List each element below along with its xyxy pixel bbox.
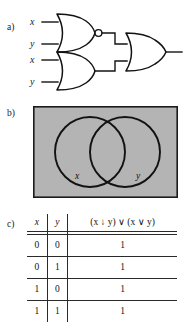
truth-table: x y (x ↓ y) ∨ (x ∨ y) 0 0 1 0 bbox=[27, 214, 177, 322]
wire-nor-to-or bbox=[102, 33, 127, 44]
cell-value: 1 bbox=[68, 235, 177, 257]
logic-circuit-diagram: x y x y bbox=[0, 0, 184, 102]
cell-x: 0 bbox=[27, 257, 47, 279]
truth-table-body: 0 0 1 0 1 1 1 0 1 1 1 1 bbox=[27, 235, 177, 323]
venn-label-y: y bbox=[135, 171, 141, 181]
table-header-row: x y (x ↓ y) ∨ (x ∨ y) bbox=[27, 214, 177, 232]
table-row: 0 0 1 bbox=[27, 235, 177, 257]
cell-x: 1 bbox=[27, 279, 47, 301]
truth-table-head: x y (x ↓ y) ∨ (x ∨ y) bbox=[27, 214, 177, 235]
input-label-y-2: y bbox=[29, 76, 35, 87]
figure-page: a) x y x y b bbox=[0, 0, 184, 327]
cell-y: 0 bbox=[47, 235, 68, 257]
cell-value: 1 bbox=[68, 257, 177, 279]
nor-gate-inversion-bubble bbox=[95, 30, 102, 37]
part-label-b: b) bbox=[7, 108, 15, 118]
cell-y: 0 bbox=[47, 279, 68, 301]
input-label-x-1: x bbox=[29, 16, 35, 27]
table-row: 1 1 1 bbox=[27, 301, 177, 323]
cell-x: 0 bbox=[27, 235, 47, 257]
part-label-c: c) bbox=[7, 219, 15, 229]
cell-x: 1 bbox=[27, 301, 47, 323]
table-row: 0 1 1 bbox=[27, 257, 177, 279]
venn-label-x: x bbox=[74, 171, 80, 181]
cell-y: 1 bbox=[47, 257, 68, 279]
cell-value: 1 bbox=[68, 279, 177, 301]
cell-value: 1 bbox=[68, 301, 177, 323]
or-gate-body-lower bbox=[57, 52, 95, 90]
venn-svg: x y bbox=[33, 106, 178, 198]
truth-table-wrapper: x y (x ↓ y) ∨ (x ∨ y) 0 0 1 0 bbox=[27, 214, 177, 322]
column-header-y: y bbox=[47, 214, 68, 232]
wire-or-to-or bbox=[95, 61, 127, 71]
input-label-x-2: x bbox=[29, 54, 35, 65]
nor-gate-body bbox=[57, 14, 95, 52]
cell-y: 1 bbox=[47, 301, 68, 323]
column-header-x: x bbox=[27, 214, 47, 232]
or-gate-body-output bbox=[126, 33, 166, 71]
table-row: 1 0 1 bbox=[27, 279, 177, 301]
column-header-formula: (x ↓ y) ∨ (x ∨ y) bbox=[68, 214, 177, 232]
input-label-y-1: y bbox=[29, 38, 35, 49]
circuit-svg: x y x y bbox=[0, 0, 184, 102]
venn-diagram: x y bbox=[33, 106, 178, 198]
